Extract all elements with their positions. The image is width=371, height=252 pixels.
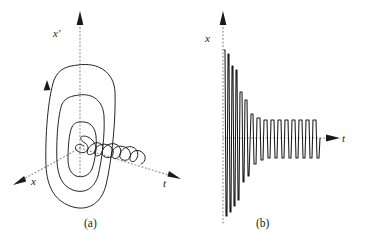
orbit-inner xyxy=(68,122,96,177)
x-prime-axis-arrowhead xyxy=(77,11,84,25)
panel-a-graphics xyxy=(0,0,190,252)
panel-a-caption: (a) xyxy=(84,217,97,229)
panel-a: x' x t (a) xyxy=(0,0,190,252)
panel-b-t-label: t xyxy=(342,133,345,144)
panel-a-x-label: x xyxy=(31,176,36,187)
orbit-direction-arrowhead xyxy=(44,80,51,91)
panel-b: x t (b) xyxy=(181,0,371,252)
waveform xyxy=(224,50,320,216)
panel-b-caption: (b) xyxy=(256,217,269,229)
t-axis-arrowhead xyxy=(167,171,181,179)
x-axis-arrowhead xyxy=(220,11,227,25)
waveform-path xyxy=(224,50,320,216)
panel-b-x-label: x xyxy=(205,33,210,44)
panel-a-t-label: t xyxy=(163,178,166,189)
figure-container: x' x t (a) x t (b) xyxy=(0,0,371,252)
panel-a-x-prime-label: x' xyxy=(53,28,60,39)
t-axis-arrowhead xyxy=(326,135,340,142)
x-axis-arrowhead xyxy=(13,176,26,185)
